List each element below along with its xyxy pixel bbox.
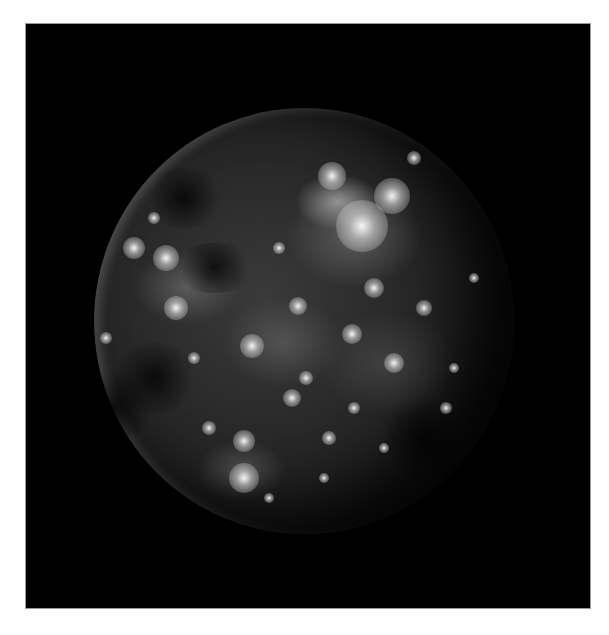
bright-crater [273,242,285,254]
bright-crater [449,363,459,373]
bright-crater [202,421,216,435]
bright-crater [318,162,346,190]
bright-crater [469,273,479,283]
bright-crater [384,353,404,373]
bright-crater [299,371,313,385]
bright-crater [264,493,274,503]
bright-crater [100,332,112,344]
bright-crater [229,463,259,493]
bright-crater [148,212,160,224]
bright-crater [322,431,336,445]
dark-terrain [79,368,149,448]
bright-crater [233,430,255,452]
bright-crater [283,389,301,407]
bright-crater [348,402,360,414]
bright-crater [188,352,200,364]
dark-terrain [174,243,254,293]
bright-crater [289,297,307,315]
bright-crater [336,200,388,252]
bright-crater [123,237,145,259]
bright-crater [379,443,389,453]
photo-frame [26,24,590,608]
bright-crater [164,296,188,320]
bright-crater [342,324,362,344]
bright-crater [319,473,329,483]
bright-crater [153,245,179,271]
bright-crater [407,151,421,165]
bright-crater [440,402,452,414]
moon-image [94,108,514,534]
bright-crater [416,300,432,316]
bright-crater [364,278,384,298]
bright-crater [240,334,264,358]
dark-terrain [379,398,469,478]
